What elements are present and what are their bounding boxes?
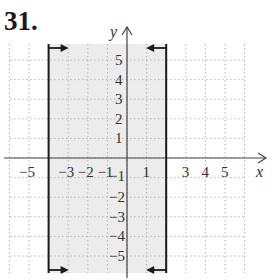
- x-tick-label: 4: [201, 164, 209, 180]
- y-tick-label: −3: [109, 209, 125, 225]
- x-tick-label: 3: [182, 164, 190, 180]
- y-tick-label: 4: [115, 72, 123, 88]
- y-tick-label: 3: [115, 91, 123, 107]
- x-tick-label: −3: [58, 164, 74, 180]
- region-graph: xy−5−3−2−1134554321−1−2−3−4−5: [0, 0, 272, 280]
- y-axis-label: y: [108, 23, 118, 41]
- x-tick-label: 1: [143, 164, 151, 180]
- y-tick-label: 5: [115, 52, 123, 68]
- x-tick-label: −5: [19, 164, 35, 180]
- y-tick-label: 2: [115, 111, 123, 127]
- y-tick-label: −1: [109, 168, 125, 184]
- x-tick-label: −2: [78, 164, 94, 180]
- y-tick-label: 1: [115, 130, 123, 146]
- y-tick-label: −4: [109, 228, 125, 244]
- y-tick-label: −2: [109, 189, 125, 205]
- y-tick-label: −5: [109, 248, 125, 264]
- x-axis-label: x: [255, 163, 263, 180]
- x-tick-label: 5: [221, 164, 229, 180]
